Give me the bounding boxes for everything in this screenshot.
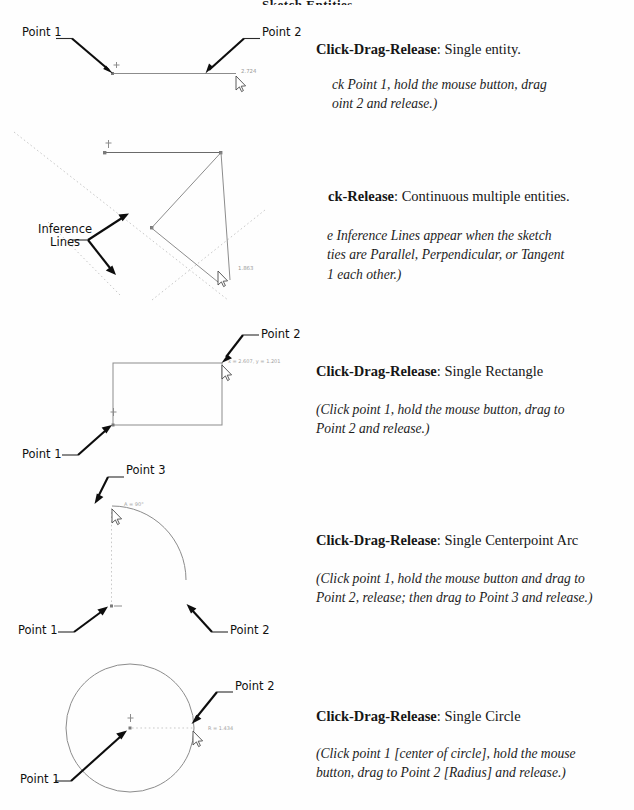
body-circle: (Click point 1 [center of circle], hold … (316, 744, 634, 783)
heading-arc: Click-Drag-Release: Single Centerpoint A… (316, 531, 578, 549)
label-point2-line: Point 2 (262, 26, 302, 39)
document-page: Sketch Entities 2.724 Point 1 Point 2 Cl… (0, 0, 634, 810)
heading-rest-rectangle: : Single Rectangle (437, 363, 543, 379)
svg-text:R = 1.434: R = 1.434 (208, 725, 233, 731)
label-point1-circle: Point 1 (20, 773, 60, 786)
heading-bold-rectangle: Click-Drag-Release (316, 363, 437, 379)
svg-text:1.863: 1.863 (238, 265, 253, 271)
label-point1-arc: Point 1 (18, 624, 58, 637)
body-rectangle: (Click point 1, hold the mouse button, d… (316, 400, 634, 439)
heading-rest-arc: : Single Centerpoint Arc (437, 532, 578, 548)
diagram-continuous-entities: 1.863 (0, 110, 310, 310)
label-point1-line: Point 1 (22, 26, 62, 39)
svg-text:A = 90°: A = 90° (124, 501, 144, 507)
heading-rest-continuous-entities: : Continuous multiple entities. (394, 188, 570, 204)
label-point2-arc: Point 2 (230, 624, 270, 637)
diagram-single-line: 2.724 (0, 0, 310, 120)
heading-single-entity: Click-Drag-Release: Single entity. (316, 40, 521, 58)
heading-bold-continuous-entities: ck-Release (328, 188, 394, 204)
heading-bold-arc: Click-Drag-Release (316, 532, 437, 548)
heading-circle: Click-Drag-Release: Single Circle (316, 707, 521, 725)
body-single-entity: ck Point 1, hold the mouse button, drag … (332, 75, 634, 114)
heading-rest-single-entity: : Single entity. (437, 41, 521, 57)
body-continuous-entities: e Inference Lines appear when the sketch… (327, 226, 634, 284)
label-point2-rectangle: Point 2 (261, 328, 301, 341)
label-inference-lines-line2: Lines (38, 236, 92, 249)
heading-bold-circle: Click-Drag-Release (316, 708, 437, 724)
heading-continuous-entities: ck-Release: Continuous multiple entities… (328, 187, 570, 205)
heading-bold-single-entity: Click-Drag-Release (316, 41, 437, 57)
heading-rest-circle: : Single Circle (437, 708, 521, 724)
svg-text:2.724: 2.724 (241, 68, 257, 74)
label-point3-arc: Point 3 (126, 464, 166, 477)
label-point2-circle: Point 2 (235, 680, 275, 693)
svg-text:x = 2.607, y = 1.201: x = 2.607, y = 1.201 (228, 358, 280, 365)
label-point1-rectangle: Point 1 (22, 448, 62, 461)
heading-rectangle: Click-Drag-Release: Single Rectangle (316, 362, 543, 380)
label-inference-lines: Inference Lines (38, 223, 92, 249)
body-arc: (Click point 1, hold the mouse button an… (316, 569, 634, 608)
